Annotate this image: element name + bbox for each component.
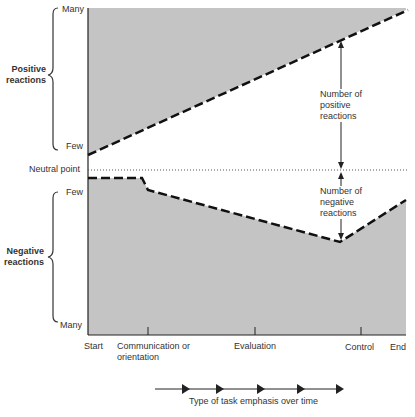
negative-annotation: Number ofnegativereactions [320, 186, 362, 219]
x-start-label: Start [84, 341, 103, 352]
neg-many-label: Many [60, 320, 82, 331]
timeline-label: Type of task emphasis over time [189, 396, 318, 407]
positive-brace [48, 8, 58, 150]
pos-many-label: Many [62, 4, 84, 15]
neutral-label: Neutral point [29, 164, 80, 175]
positive-annotation: Number ofpositivereactions [320, 89, 362, 122]
pos-few-label: Few [66, 141, 83, 152]
x-control-label: Control [345, 342, 374, 353]
neg-few-label: Few [66, 187, 83, 198]
x-communication-label: Communication ororientation [117, 341, 190, 363]
negative-brace [48, 192, 58, 322]
negative-group-label: Negativereactions [0, 246, 44, 268]
x-evaluation-label: Evaluation [234, 341, 276, 352]
x-end-label: End [390, 342, 406, 353]
positive-group-label: Positivereactions [2, 64, 46, 86]
